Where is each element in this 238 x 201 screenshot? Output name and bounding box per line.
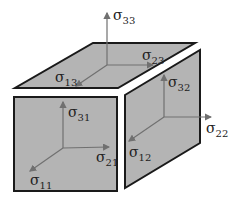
label-sigma22: σ22 <box>206 121 228 139</box>
label-sigma12: σ12 <box>129 145 151 163</box>
stress-cube-diagram: σ33 σ23 σ13 σ32 σ22 σ12 σ31 σ21 σ11 <box>0 0 238 201</box>
label-sigma23: σ23 <box>142 48 164 66</box>
label-sigma11: σ11 <box>30 173 52 191</box>
label-sigma13: σ13 <box>55 70 77 88</box>
label-sigma33: σ33 <box>113 8 135 26</box>
diagram-canvas <box>0 0 238 201</box>
label-sigma32: σ32 <box>168 75 190 93</box>
label-sigma31: σ31 <box>68 105 90 123</box>
label-sigma21: σ21 <box>96 150 118 168</box>
